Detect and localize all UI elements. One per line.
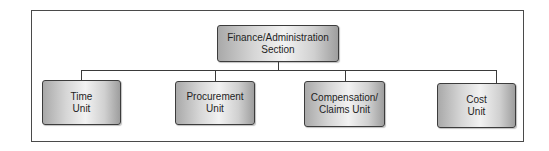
node-finance-administration-section: Finance/Administration Section — [217, 25, 339, 62]
node-label: Procurement Unit — [186, 91, 243, 115]
node-label: Cost Unit — [466, 94, 487, 118]
connector-stem-compensation-claims-unit — [345, 70, 346, 81]
node-label: Compensation/ Claims Unit — [311, 92, 378, 116]
node-compensation-claims-unit: Compensation/ Claims Unit — [304, 81, 385, 127]
node-cost-unit: Cost Unit — [437, 83, 516, 128]
node-time-unit: Time Unit — [42, 80, 121, 125]
node-label: Time Unit — [71, 91, 93, 115]
connector-stem-procurement-unit — [215, 70, 216, 81]
node-label: Finance/Administration Section — [227, 32, 329, 56]
node-procurement-unit: Procurement Unit — [175, 81, 255, 125]
connector-horizontal-bus — [81, 70, 497, 71]
connector-stem-cost-unit — [496, 70, 497, 83]
